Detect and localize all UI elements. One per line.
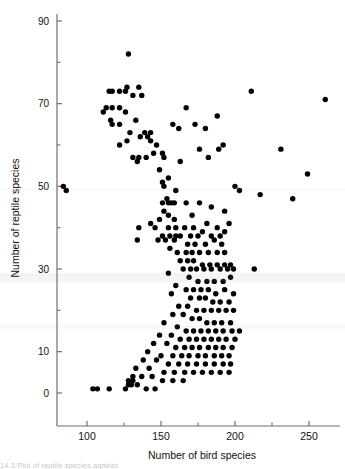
data-point	[195, 353, 200, 358]
y-tick-label: 50	[38, 181, 50, 192]
data-point	[204, 221, 209, 226]
data-point	[216, 146, 221, 151]
data-point	[172, 370, 177, 375]
x-tick-label: 100	[78, 430, 96, 442]
data-point	[124, 138, 129, 143]
y-tick-label: 90	[38, 16, 50, 27]
data-point	[226, 370, 231, 375]
data-point	[194, 308, 199, 313]
figure-caption: 14.3 Plot of reptile species against	[0, 460, 345, 469]
data-point	[186, 275, 191, 280]
data-point	[218, 233, 223, 238]
data-point	[204, 279, 209, 284]
data-point	[133, 118, 138, 123]
data-point	[130, 93, 135, 98]
data-point	[182, 225, 187, 230]
data-point	[222, 250, 227, 255]
data-point	[175, 324, 180, 329]
data-point	[183, 105, 188, 110]
data-point	[209, 308, 214, 313]
data-point	[198, 287, 203, 292]
data-point	[161, 370, 166, 375]
data-point	[197, 146, 202, 151]
data-point	[209, 204, 214, 209]
data-point	[130, 378, 135, 383]
data-point	[170, 312, 175, 317]
data-point	[185, 258, 190, 263]
data-point	[127, 130, 132, 135]
data-point	[231, 291, 236, 296]
data-point	[166, 175, 171, 180]
y-tick-label: 10	[38, 346, 50, 357]
data-point	[191, 328, 196, 333]
data-point	[185, 361, 190, 366]
data-point	[181, 312, 186, 317]
data-point	[203, 126, 208, 131]
data-point	[213, 345, 218, 350]
data-point	[237, 328, 242, 333]
data-point	[215, 113, 220, 118]
data-point	[145, 349, 150, 354]
data-point	[213, 291, 218, 296]
data-point	[173, 188, 178, 193]
data-point	[151, 341, 156, 346]
data-point	[220, 361, 225, 366]
data-point	[178, 233, 183, 238]
data-point	[154, 357, 159, 362]
data-point	[135, 237, 140, 242]
data-point	[107, 386, 112, 391]
data-points-layer	[61, 51, 328, 391]
data-point	[178, 337, 183, 342]
data-point	[126, 51, 131, 56]
data-point	[117, 122, 122, 127]
data-point	[231, 266, 236, 271]
data-point	[167, 233, 172, 238]
data-point	[232, 184, 237, 189]
data-point	[133, 366, 138, 371]
data-point	[189, 213, 194, 218]
data-point	[191, 370, 196, 375]
data-point	[206, 328, 211, 333]
data-point	[175, 250, 180, 255]
data-point	[219, 242, 224, 247]
data-point	[185, 242, 190, 247]
data-point	[181, 378, 186, 383]
data-point	[226, 221, 231, 226]
data-point	[226, 353, 231, 358]
data-point	[148, 221, 153, 226]
data-point	[206, 287, 211, 292]
data-point	[164, 341, 169, 346]
data-point	[220, 279, 225, 284]
data-point	[305, 171, 310, 176]
data-point	[151, 151, 156, 156]
data-point	[169, 291, 174, 296]
data-point	[203, 242, 208, 247]
data-point	[209, 266, 214, 271]
data-point	[157, 332, 162, 337]
data-point	[144, 386, 149, 391]
data-point	[166, 213, 171, 218]
data-point	[117, 142, 122, 147]
data-point	[191, 258, 196, 263]
data-point	[160, 378, 165, 383]
data-point	[170, 353, 175, 358]
data-point	[222, 208, 227, 213]
data-point	[216, 308, 221, 313]
data-point	[135, 382, 140, 387]
data-point	[136, 225, 141, 230]
data-point	[213, 328, 218, 333]
data-point	[212, 279, 217, 284]
scatter-plot-figure: 01030507090100150200250Number of bird sp…	[0, 0, 345, 469]
data-point	[201, 308, 206, 313]
data-point	[139, 93, 144, 98]
data-point	[176, 304, 181, 309]
data-point	[210, 299, 215, 304]
data-point	[136, 84, 141, 89]
data-point	[109, 122, 114, 127]
data-point	[173, 345, 178, 350]
data-point	[163, 237, 168, 242]
data-point	[192, 242, 197, 247]
data-point	[200, 370, 205, 375]
data-point	[229, 345, 234, 350]
data-point	[172, 200, 177, 205]
